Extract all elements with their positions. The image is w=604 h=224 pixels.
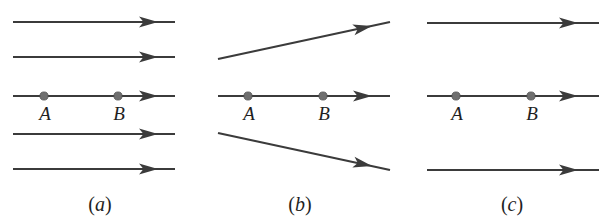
panel-caption-c: (c) [501,193,523,216]
point-label-b: B [113,103,125,124]
figure-canvas: AB(a)AB(b)AB(c) [0,0,604,224]
panel-b: AB(b) [218,21,390,216]
point-marker-a [244,92,252,100]
point-marker-a [452,92,460,100]
panel-c: AB(c) [427,18,599,216]
panel-a: AB(a) [13,17,175,216]
point-marker-b [319,92,327,100]
arrowhead-icon [352,21,373,36]
arrowhead-icon [352,157,373,172]
point-label-a: A [449,103,463,124]
panels-layer: AB(a)AB(b)AB(c) [13,17,599,216]
point-marker-b [527,92,535,100]
point-label-a: A [37,103,51,124]
panel-caption-a: (a) [88,193,111,216]
field-line-figure: AB(a)AB(b)AB(c) [0,0,604,224]
panel-caption-b: (b) [288,193,311,216]
point-label-b: B [526,103,538,124]
point-marker-b [114,92,122,100]
point-label-a: A [241,103,255,124]
point-label-b: B [318,103,330,124]
point-marker-a [40,92,48,100]
